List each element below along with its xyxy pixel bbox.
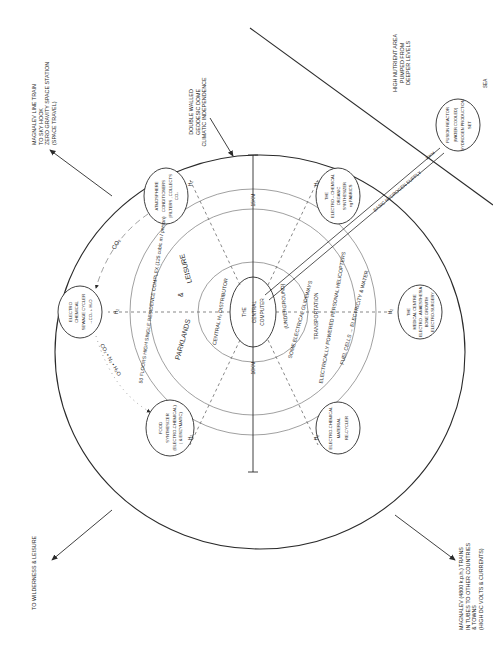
svg-text:ELECTRO – CHEMICAL: ELECTRO – CHEMICAL <box>330 173 335 218</box>
svg-text:(WATER COOLED): (WATER COOLED) <box>453 107 458 142</box>
svg-text:eg FABRICS: eg FABRICS <box>348 184 353 207</box>
dimension-15km: 15KM <box>250 193 256 206</box>
svg-text:(ELECTRO-CHEMICAL): (ELECTRO-CHEMICAL) <box>172 405 177 451</box>
label-leisure: LEISURE <box>178 253 193 284</box>
svg-text:SYNTHESIZER: SYNTHESIZER <box>165 413 170 442</box>
svg-text:IN TUBES TO OTHER COUNTRIES: IN TUBES TO OTHER COUNTRIES <box>465 542 471 630</box>
svg-text:DEEPER LEVELS: DEEPER LEVELS <box>405 41 411 85</box>
label-maglev-sky-hook: MAGNALEV LINE TRAIN TO SKY HOOK ZERO GRA… <box>31 62 57 145</box>
node-food <box>146 400 194 456</box>
svg-text:ELECTRO-CHEMICAL: ELECTRO-CHEMICAL <box>328 406 333 449</box>
svg-text:CHEMICAL: CHEMICAL <box>74 301 79 323</box>
label-sea: SEA <box>483 78 488 88</box>
h2-label-organic: H₂ <box>314 181 319 186</box>
label-residence: 50 FLOORS HIGH SINGLE RESIDENCE COMPLEX … <box>137 215 166 383</box>
svg-text:ELECTRO: ELECTRO <box>68 301 73 322</box>
central-computer-label: THE CENTRAL COMPUTER <box>242 298 265 326</box>
svg-text:FUSION REACTOR: FUSION REACTOR <box>445 107 450 143</box>
h2-label-atmosphere: H₂ <box>188 181 193 186</box>
svg-text:MAGNALEV (4800 k.p.h.) TRAINS: MAGNALEV (4800 k.p.h.) TRAINS <box>458 547 464 630</box>
svg-text:DOUBLE WALLED: DOUBLE WALLED <box>188 89 194 135</box>
svg-text:PUMPED FROM: PUMPED FROM <box>399 42 405 83</box>
svg-text:HYDROGEN PRODUCTION: HYDROGEN PRODUCTION <box>460 99 465 150</box>
svg-text:CLIMATIC INDEPENDENCE: CLIMATIC INDEPENDENCE <box>201 77 207 146</box>
svg-text:(SPACE TRAVEL): (SPACE TRAVEL) <box>51 101 57 145</box>
svg-text:CONDITIONERS: CONDITIONERS <box>161 180 166 212</box>
node-sewage <box>58 286 102 338</box>
label-dome: DOUBLE WALLED GEODESIC DOME CLIMATIC IND… <box>188 77 207 146</box>
h2-label-medical: H₂ <box>388 309 393 314</box>
co2-flow-label: CO₂ <box>111 237 122 250</box>
arrow-dome <box>210 118 233 156</box>
svg-text:(HIGH DC VOLTS & CURRENTS): (HIGH DC VOLTS & CURRENTS) <box>478 548 484 630</box>
label-transportation: TRANSPORTATION <box>313 292 319 339</box>
svg-text:COMPUTER: COMPUTER <box>260 298 265 326</box>
h2-label-material: H₂ <box>314 435 319 440</box>
h2-label-food: H₂ <box>188 435 193 440</box>
node-atmosphere <box>144 168 188 224</box>
label-nutrient: HIGH NUTRIENT AREA PUMPED FROM DEEPER LE… <box>392 34 411 92</box>
svg-text:FOOD: FOOD <box>158 422 163 434</box>
h2-label-sewage: H₂ <box>114 309 119 314</box>
svg-text:HIGH NUTRIENT AREA: HIGH NUTRIENT AREA <box>392 34 398 92</box>
svg-text:ELECTRO-SURGERY: ELECTRO-SURGERY <box>430 292 435 332</box>
svg-text:TO SKY HOOK: TO SKY HOOK <box>38 108 44 145</box>
bottom-chain-label: CO₂ • N₂ • H₂O <box>99 343 122 377</box>
svg-text:SET: SET <box>467 121 472 129</box>
svg-text:CENTRAL: CENTRAL <box>252 300 257 323</box>
svg-text:MAGNALEV LINE TRAIN: MAGNALEV LINE TRAIN <box>31 84 37 145</box>
label-amp: & <box>177 292 184 297</box>
svg-text:THE: THE <box>242 307 247 317</box>
svg-text:THE: THE <box>406 308 411 316</box>
svg-text:SEWAGE CYCLER: SEWAGE CYCLER <box>81 294 86 330</box>
svg-text:BONE GROWTH: BONE GROWTH <box>424 297 429 328</box>
label-maglev-trains: MAGNALEV (4800 k.p.h.) TRAINS IN TUBES T… <box>458 542 484 630</box>
svg-text:CO₂: CO₂ <box>174 192 179 200</box>
svg-text:& TOWNS: & TOWNS <box>471 605 477 630</box>
label-fuel-cells: FUEL CELLS → ELECTRICITY & WATER <box>339 270 370 366</box>
svg-text:(FILTERS , COLLECTS: (FILTERS , COLLECTS <box>168 174 173 218</box>
svg-text:ATMOSPHERE: ATMOSPHERE <box>154 181 159 210</box>
label-distributor: CENTRAL H₂ DISTRIBUTOR <box>211 278 229 346</box>
svg-text:ZERO GRAVITY SPACE STATION: ZERO GRAVITY SPACE STATION <box>44 62 50 145</box>
svg-text:ELECTRO - ANAESTHESIA: ELECTRO - ANAESTHESIA <box>418 287 423 338</box>
arrow-wilderness <box>52 510 112 560</box>
svg-text:MEDICAL CENTRE: MEDICAL CENTRE <box>412 294 417 330</box>
label-wilderness: TO WILDERNESS & LEISURE <box>31 535 37 610</box>
svg-text:→CO₂ + H₂O: →CO₂ + H₂O <box>88 299 93 325</box>
label-glideways: SOME ELECTRICAL GLIDEWAYS <box>287 279 314 359</box>
dimension-10km: 10KM <box>250 361 256 374</box>
svg-text:RE-CYCLER: RE-CYCLER <box>344 416 349 440</box>
arrow-maglev-trains <box>395 515 455 560</box>
svg-text:GEODESIC DOME: GEODESIC DOME <box>195 89 201 136</box>
arrow-sky-hook <box>50 150 112 196</box>
label-parklands: PARKLANDS <box>174 318 192 361</box>
node-fusion-reactor <box>436 99 480 151</box>
svg-text:THE: THE <box>324 192 329 200</box>
outer-dome <box>55 155 465 549</box>
label-underground: (UNDERGROUND) <box>279 283 289 329</box>
city-diagram: MAGNALEV LINE TRAIN TO SKY HOOK ZERO GRA… <box>0 0 493 667</box>
svg-text:ORGANIC: ORGANIC <box>336 187 341 206</box>
svg-text:SYNTHESIZER: SYNTHESIZER <box>342 182 347 210</box>
svg-text:MATERIAL: MATERIAL <box>336 417 341 438</box>
svg-text:( & ENZYMATIC): ( & ENZYMATIC) <box>178 412 183 444</box>
